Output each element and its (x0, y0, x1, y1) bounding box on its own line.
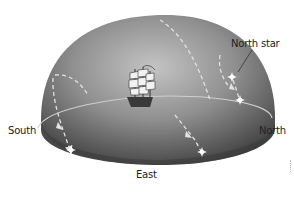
north-label: North (259, 126, 286, 136)
celestial-dome-diagram: North star South North East (0, 0, 294, 201)
north-star-label: North star (231, 39, 280, 49)
east-label: East (136, 170, 157, 180)
south-label: South (8, 126, 36, 136)
edge-artifact (290, 160, 293, 172)
